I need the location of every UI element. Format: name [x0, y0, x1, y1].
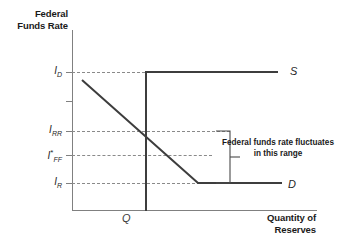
- demand-curve-label: D: [288, 178, 296, 190]
- x-axis-title: Quantity of Reserves: [196, 212, 316, 235]
- x-tick-label-quantity: Q: [122, 212, 131, 224]
- supply-curve-label: S: [290, 65, 297, 77]
- range-annotation-line2: in this range: [214, 149, 342, 160]
- x-axis-title-line2: Reserves: [196, 224, 316, 236]
- demand-curve: [82, 80, 282, 183]
- x-axis-title-line1: Quantity of: [196, 212, 316, 224]
- range-annotation: Federal funds rate fluctuates in this ra…: [214, 138, 342, 159]
- range-annotation-line1: Federal funds rate fluctuates: [214, 138, 342, 149]
- federal-funds-rate-chart: Federal Funds Rate ID IRR I*FF IR S D Q: [0, 0, 343, 244]
- curves-layer: [0, 0, 343, 244]
